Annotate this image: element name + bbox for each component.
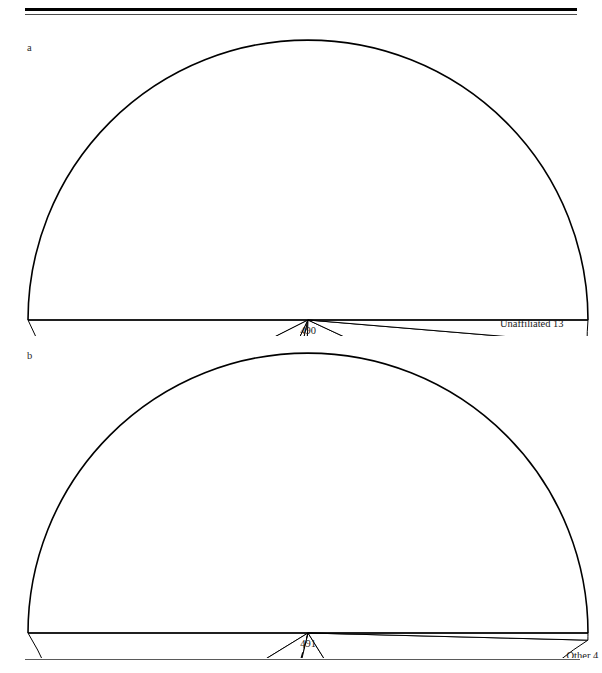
sector-label-line: Unaffiliated 13 [500,318,564,329]
top-rule-thin [25,14,577,15]
sector-label-other: Other 4 [567,650,600,659]
hemicycle-chart-a: Communists73Socialists (89)andLeft Radic… [0,26,602,336]
sector-communists [28,320,308,336]
top-rule-thick [25,8,577,11]
sector-label-unaffiliated: Unaffiliated 13 [500,318,564,329]
sector-label-line: Other 4 [567,650,600,659]
total-seats-label: 490 [300,325,316,336]
figure-page: · · · a b Communists73Socialists (89)and… [0,0,602,673]
outer-arc [28,353,588,633]
bottom-rule [25,659,580,660]
sector-communists [28,633,308,658]
total-seats-label: 491 [300,638,316,649]
outer-arc [28,40,588,320]
cropped-caption-stub: · · · [0,0,602,3]
hemicycle-chart-b: Communists86Socialists (113)andLeft Radi… [0,338,602,658]
